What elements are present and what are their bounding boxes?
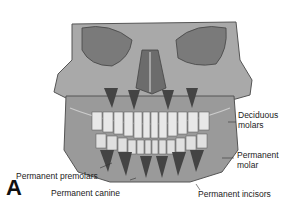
label-permanent-canine: Permanent canine: [51, 188, 120, 198]
label-deciduous-molars-line1: Deciduous: [238, 110, 278, 120]
label-permanent-premolars: Permanent premolars: [16, 171, 98, 181]
label-deciduous-molars-line2: molars: [238, 120, 264, 130]
label-permanent-molar-line1: Permanent: [237, 150, 279, 160]
panel-letter: A: [6, 175, 22, 201]
label-permanent-molar-line2: molar: [237, 160, 258, 170]
label-permanent-incisors: Permanent incisors: [198, 189, 271, 199]
